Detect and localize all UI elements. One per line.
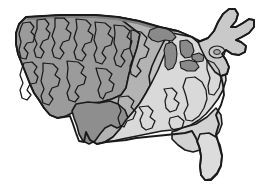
us-map-figure xyxy=(0,0,262,186)
us-map-svg xyxy=(0,0,262,186)
lake-ontario-ring-inner-icon xyxy=(214,50,221,55)
lake-ontario-shape xyxy=(192,53,204,62)
